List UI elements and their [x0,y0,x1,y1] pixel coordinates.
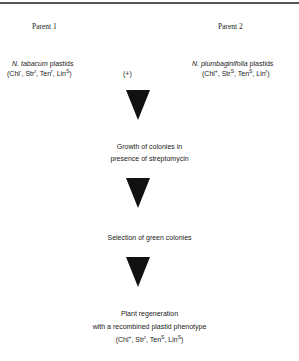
parent2-suffix: plastids [248,60,274,67]
step2-line1: Selection of green colonies [0,233,299,242]
down-arrow-icon [126,90,150,120]
parent1-genotype: (Chl-, Strr, Tenr, LinS) [7,69,72,78]
parent1-species: N. tabacum [12,60,48,67]
down-arrow-icon [126,257,150,287]
parent1-suffix: plastids [48,60,74,67]
parent2-heading: Parent 2 [218,22,243,31]
step3-line2: with a recombined plastid phenotype [0,322,299,331]
top-rule [0,2,299,4]
parent2-species: N. plumbaginifolia [192,60,248,67]
parent2-plastids: N. plumbaginifolia plastids [192,59,273,68]
step3-line1: Plant regeneration [0,309,299,318]
step1-line2: presence of streptomycin [0,154,299,163]
step1-line1: Growth of colonies in [0,142,299,151]
parent2-genotype: (Chl+, StrS, TenS, Linr) [202,69,270,78]
down-arrow-icon [126,178,150,208]
cross-symbol: (+) [123,69,132,78]
parent1-plastids: N. tabacum plastids [12,59,73,68]
parent1-heading: Parent 1 [32,22,57,31]
result-genotype: (Chl+, Strr, TenS, LinS) [0,335,299,344]
